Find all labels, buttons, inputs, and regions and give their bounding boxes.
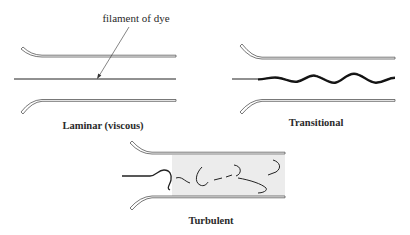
turbulent-lower-wall <box>130 196 285 210</box>
laminar-label: Laminar (viscous) <box>62 120 144 132</box>
turbulent-label: Turbulent <box>188 215 234 226</box>
arrow-head-icon <box>97 74 101 80</box>
turbulent-shaded-region <box>172 155 285 196</box>
transitional-upper-wall <box>240 44 395 59</box>
dye-annotation: filament of dye <box>97 12 170 79</box>
laminar-lower-wall <box>21 100 176 115</box>
turbulent-upper-wall <box>130 141 285 154</box>
annotation-text: filament of dye <box>102 12 169 24</box>
laminar-upper-wall <box>21 47 176 57</box>
transitional-lower-wall <box>240 100 395 115</box>
transitional-panel: Transitional <box>232 44 395 128</box>
annotation-arrow-line <box>99 27 129 76</box>
flow-regimes-diagram: Laminar (viscous) filament of dye Transi… <box>0 0 410 235</box>
transitional-label: Transitional <box>289 117 344 128</box>
turbulent-panel: Turbulent <box>122 141 285 226</box>
laminar-panel: Laminar (viscous) <box>14 47 176 132</box>
